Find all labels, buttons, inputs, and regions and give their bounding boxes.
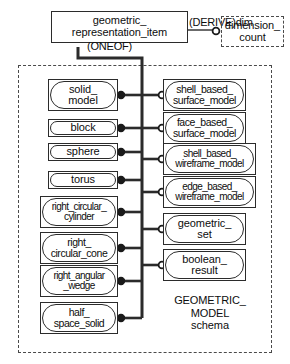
subtype-right-angular-wedge-label: right_angular _wedge bbox=[42, 267, 116, 295]
schema-caption: GEOMETRIC_ MODEL schema bbox=[160, 294, 260, 332]
subtype-edge-based-wireframe-model-label: edge_based_ wireframe_model bbox=[165, 178, 254, 206]
subtype-face-based-surface-model[interactable]: face_based_ surface_model bbox=[163, 112, 246, 144]
subtype-geometric-set[interactable]: geometric_ set bbox=[163, 213, 246, 245]
express-g-diagram: geometric_ representation_item (ONEOF) (… bbox=[0, 0, 290, 364]
subtype-sphere-label: sphere bbox=[50, 145, 116, 159]
subtype-torus-label: torus bbox=[50, 173, 116, 187]
subtype-solid-model-label: solid_ model bbox=[50, 81, 116, 109]
subtype-edge-based-wireframe-model[interactable]: edge_based_ wireframe_model bbox=[163, 176, 256, 208]
subtype-torus[interactable]: torus bbox=[48, 171, 118, 189]
subtype-solid-model[interactable]: solid_ model bbox=[48, 79, 118, 111]
subtype-right-circular-cylinder-label: right_circular_ cylinder bbox=[42, 198, 116, 226]
subtype-boolean-result[interactable]: boolean_ result bbox=[163, 249, 246, 281]
subtype-block-label: block bbox=[50, 121, 116, 135]
subtype-shell-based-wireframe-model[interactable]: shell_based_ wireframe_model bbox=[163, 143, 256, 175]
subtype-right-circular-cylinder[interactable]: right_circular_ cylinder bbox=[40, 196, 118, 228]
subtype-shell-based-wireframe-model-label: shell_based_ wireframe_model bbox=[165, 145, 254, 173]
entity-geometric-representation-item[interactable]: geometric_ representation_item bbox=[51, 11, 188, 43]
subtype-boolean-result-label: boolean_ result bbox=[165, 251, 244, 279]
attribute-dimension-count[interactable]: dimension_ count bbox=[221, 16, 284, 47]
subtype-right-circular-cone[interactable]: right_ circular_cone bbox=[40, 232, 118, 264]
subtype-block[interactable]: block bbox=[48, 119, 118, 137]
subtype-sphere[interactable]: sphere bbox=[48, 143, 118, 161]
subtype-shell-based-surface-model[interactable]: shell_based_ surface_model bbox=[163, 79, 246, 111]
subtype-half-space-solid-label: half_ space_solid bbox=[42, 304, 116, 332]
subtype-face-based-surface-model-label: face_based_ surface_model bbox=[165, 114, 244, 142]
subtype-shell-based-surface-model-label: shell_based_ surface_model bbox=[165, 81, 244, 109]
subtype-half-space-solid[interactable]: half_ space_solid bbox=[40, 302, 118, 334]
subtype-geometric-set-label: geometric_ set bbox=[165, 215, 244, 243]
subtype-right-angular-wedge[interactable]: right_angular _wedge bbox=[40, 265, 118, 297]
subtype-right-circular-cone-label: right_ circular_cone bbox=[42, 234, 116, 262]
oneof-label: (ONEOF) bbox=[87, 40, 132, 52]
